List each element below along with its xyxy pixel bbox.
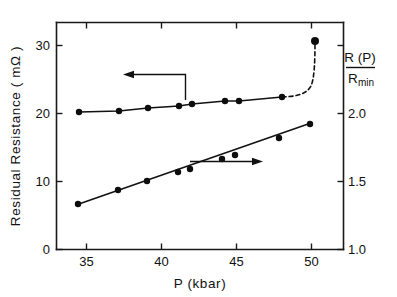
resistance-ratio-line — [76, 123, 311, 205]
data-point — [189, 101, 195, 107]
right-axis-ticks — [338, 46, 344, 250]
data-point — [115, 187, 121, 193]
data-point — [75, 201, 81, 207]
data-point — [222, 98, 228, 104]
right-ticklabel-1-0: 1.0 — [348, 242, 366, 257]
data-point — [311, 37, 319, 45]
series-residual-resistance — [76, 37, 319, 115]
top-axis-ticks — [87, 23, 312, 29]
data-point — [187, 166, 193, 172]
x-axis-ticklabels: 35 40 45 50 — [79, 254, 318, 269]
left-axis-ticklabels: 30 20 10 0 — [36, 38, 50, 257]
data-point — [116, 108, 122, 114]
data-point — [144, 178, 150, 184]
left-axis-ticks — [57, 46, 63, 250]
axes-frame — [57, 23, 344, 250]
right-label-numerator: R (P) — [344, 50, 376, 65]
left-arrow-stem — [131, 75, 186, 101]
left-ticklabel-10: 10 — [36, 174, 50, 189]
left-arrow-annotation — [123, 71, 186, 100]
y-axis-label-left: Residual Resistance ( mΩ ) — [8, 46, 23, 226]
chart-canvas: 30 20 10 0 2.0 1.5 1.0 35 40 45 50 P (kb… — [0, 0, 397, 297]
right-arrow-head — [252, 158, 263, 165]
left-ticklabel-0: 0 — [43, 242, 50, 257]
right-label-denominator: R — [348, 71, 358, 86]
data-point — [232, 152, 238, 158]
data-point — [236, 98, 242, 104]
x-axis-label: P (kbar) — [174, 276, 227, 291]
right-ticklabel-2-0: 2.0 — [348, 106, 366, 121]
data-point — [76, 109, 82, 115]
right-ticklabel-1-5: 1.5 — [348, 174, 366, 189]
x-ticklabel-35: 35 — [79, 254, 93, 269]
right-axis-ticklabels: 2.0 1.5 1.0 — [348, 106, 366, 257]
data-point — [307, 121, 313, 127]
left-arrow-head — [123, 71, 134, 78]
series-resistance-ratio — [75, 121, 313, 207]
x-ticklabel-40: 40 — [154, 254, 168, 269]
data-point — [276, 135, 282, 141]
figure-container: 30 20 10 0 2.0 1.5 1.0 35 40 45 50 P (kb… — [0, 0, 397, 297]
left-ticklabel-30: 30 — [36, 38, 50, 53]
data-point — [145, 105, 151, 111]
left-ticklabel-20: 20 — [36, 106, 50, 121]
x-ticklabel-45: 45 — [229, 254, 243, 269]
data-point — [176, 103, 182, 109]
data-point — [175, 169, 181, 175]
x-axis-ticks — [87, 244, 312, 250]
right-arrow-annotation — [190, 158, 263, 165]
y-axis-label-right: R (P) R min — [344, 50, 376, 88]
right-label-denominator-subscript: min — [358, 77, 374, 88]
x-ticklabel-50: 50 — [304, 254, 318, 269]
residual-resistance-dashed-tail — [282, 42, 315, 97]
data-point — [279, 94, 285, 100]
